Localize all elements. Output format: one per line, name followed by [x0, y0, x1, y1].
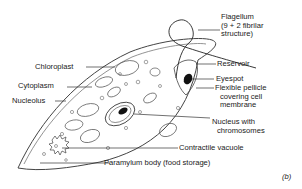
- label-reservoir: Reservoir: [217, 60, 250, 69]
- label-pellicle: Flexible pellicle covering cell membrane: [215, 84, 267, 110]
- label-nucleolus: Nucleolus: [12, 97, 45, 106]
- label-chloroplast: Chloroplast: [35, 63, 73, 72]
- label-paramylum: Paramylum body (food storage): [104, 159, 210, 168]
- label-contractile-vacuole: Contractile vacuole: [179, 144, 244, 153]
- label-nucleus: Nucleus with chromosomes: [212, 118, 265, 135]
- figure-label: (b): [282, 172, 291, 181]
- label-pellicle-line3: membrane: [215, 101, 267, 110]
- label-nucleus-line2: chromosomes: [212, 127, 265, 136]
- label-flagellum-line3: structure): [221, 30, 263, 39]
- label-flagellum: Flagellum (9 + 2 fibrilar structure): [221, 13, 263, 39]
- label-cytoplasm: Cytoplasm: [18, 82, 54, 91]
